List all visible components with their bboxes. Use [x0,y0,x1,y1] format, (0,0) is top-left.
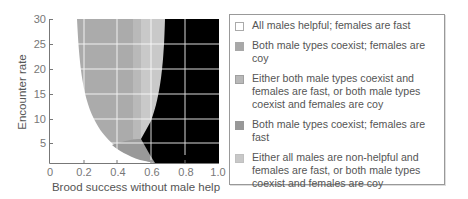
y-tick-15: 15 [34,88,46,100]
legend-item-either-nonhelpful: Either all males are non-helpful and fem… [230,151,444,190]
y-tick-labels: 30 25 20 15 10 5 [34,13,46,149]
swatch-light-gray-icon [235,154,244,163]
legend-item-all-helpful: All males helpful; females are fast [230,19,444,32]
plot-regions [77,19,219,163]
x-tick-1.0: 1.0 [210,166,225,178]
y-tick-10: 10 [34,113,46,125]
x-tick-0.8: 0.8 [178,166,193,178]
legend-label: Both male types coexist; females are fas… [252,118,440,144]
legend: All males helpful; females are fast Both… [229,14,445,185]
chart-plot: 30 25 20 15 10 5 0 0.2 0.4 0.6 0.8 1.0 B… [0,0,228,199]
legend-label: Both male types coexist; females are coy [252,39,440,65]
y-tick-5: 5 [40,137,46,149]
legend-label: Either both male types coexist and femal… [252,72,440,111]
y-tick-30: 30 [34,13,46,25]
legend-item-coexist-fast: Both male types coexist; females are fas… [230,118,444,144]
swatch-gray-icon [235,42,244,51]
y-axis-title: Encounter rate [16,54,28,129]
swatch-dark-gray-icon [235,121,244,130]
swatch-white-icon [235,22,244,31]
legend-item-nonhelpful-fast: All males are non-helpful; females are f… [230,197,444,199]
x-tick-0.4: 0.4 [110,166,125,178]
x-tick-labels: 0 0.2 0.4 0.6 0.8 1.0 [47,166,226,178]
y-tick-25: 25 [34,38,46,50]
legend-label: All males are non-helpful; females are f… [252,197,440,199]
x-tick-0.6: 0.6 [144,166,159,178]
legend-label: Either all males are non-helpful and fem… [252,151,440,190]
legend-item-either-coexist: Either both male types coexist and femal… [230,72,444,111]
region-either-coexist [133,19,141,139]
legend-label: All males helpful; females are fast [252,19,410,32]
swatch-striped-gray-icon [235,75,244,84]
y-tick-20: 20 [34,63,46,75]
x-axis-title: Brood success without male help [52,181,220,193]
x-tick-0: 0 [47,166,53,178]
x-tick-0.2: 0.2 [76,166,91,178]
legend-item-coexist-coy: Both male types coexist; females are coy [230,39,444,65]
